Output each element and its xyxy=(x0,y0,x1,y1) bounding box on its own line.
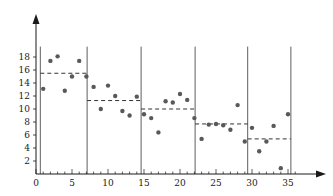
data-point xyxy=(192,116,196,120)
data-point xyxy=(127,113,131,117)
x-tick-label-15: 15 xyxy=(138,178,150,188)
data-point xyxy=(257,149,261,153)
segmented-scatter-chart: 24681012141618 05101520253035 xyxy=(0,0,333,196)
x-tick-label-10: 10 xyxy=(102,178,114,188)
data-point xyxy=(171,100,175,104)
y-tick-label-10: 10 xyxy=(19,104,31,114)
data-point xyxy=(163,99,167,103)
x-tick-label-30: 30 xyxy=(246,178,258,188)
y-axis-arrow xyxy=(33,14,40,24)
y-tick-label-6: 6 xyxy=(24,130,30,140)
y-tick-label-14: 14 xyxy=(19,78,31,88)
data-points xyxy=(41,54,290,170)
y-axis xyxy=(33,14,40,174)
y-tick-label-18: 18 xyxy=(19,52,31,62)
data-point xyxy=(55,54,59,58)
data-point xyxy=(48,59,52,63)
data-point xyxy=(214,122,218,126)
data-point xyxy=(271,124,275,128)
data-point xyxy=(243,139,247,143)
data-point xyxy=(91,85,95,89)
x-tick-label-25: 25 xyxy=(210,178,222,188)
data-point xyxy=(221,123,225,127)
y-tick-label-8: 8 xyxy=(24,117,30,127)
x-tick-label-5: 5 xyxy=(69,178,75,188)
data-point xyxy=(70,74,74,78)
data-point xyxy=(120,109,124,113)
data-point xyxy=(113,94,117,98)
boundary-lines xyxy=(40,47,291,174)
data-point xyxy=(264,139,268,143)
data-point xyxy=(235,103,239,107)
data-point xyxy=(106,83,110,87)
data-point xyxy=(178,92,182,96)
x-axis xyxy=(36,169,326,178)
data-point xyxy=(286,112,290,116)
data-point xyxy=(199,137,203,141)
data-point xyxy=(228,128,232,132)
data-point xyxy=(84,74,88,78)
data-point xyxy=(63,89,67,93)
data-point xyxy=(207,122,211,126)
data-point xyxy=(250,126,254,130)
y-tick-label-12: 12 xyxy=(19,91,30,101)
x-axis-arrow xyxy=(316,171,326,178)
y-tick-label-4: 4 xyxy=(24,143,30,153)
x-tick-label-20: 20 xyxy=(174,178,186,188)
x-tick-label-35: 35 xyxy=(282,178,294,188)
data-point xyxy=(149,116,153,120)
data-point xyxy=(135,94,139,98)
data-point xyxy=(156,130,160,134)
y-tick-labels: 24681012141618 xyxy=(19,52,31,166)
x-tick-labels: 05101520253035 xyxy=(33,178,294,188)
y-tick-label-16: 16 xyxy=(19,65,31,75)
chart-container: 24681012141618 05101520253035 xyxy=(0,0,333,196)
data-point xyxy=(185,98,189,102)
data-point xyxy=(77,59,81,63)
x-tick-label-0: 0 xyxy=(33,178,39,188)
data-point xyxy=(99,107,103,111)
y-tick-label-2: 2 xyxy=(24,156,30,166)
data-point xyxy=(41,87,45,91)
data-point xyxy=(142,112,146,116)
data-point xyxy=(279,166,283,170)
